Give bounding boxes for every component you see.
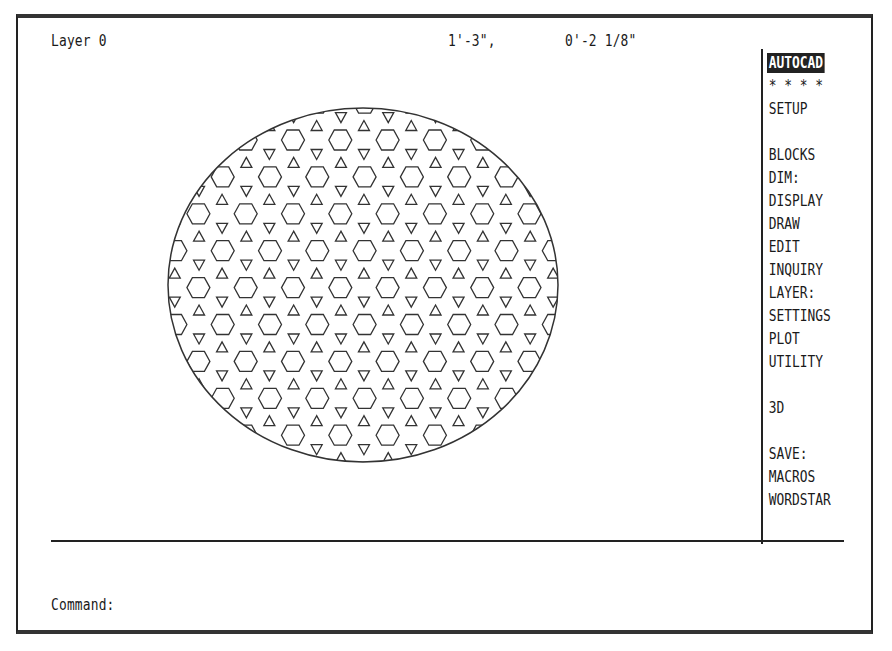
triangle-down-shape [146,260,157,270]
triangle-up-shape [358,47,369,57]
menu-item-plot[interactable]: PLOT [767,329,802,349]
triangle-down-shape [406,76,417,86]
triangle-down-shape [430,260,441,270]
triangle-up-shape [75,194,86,204]
menu-item-blocks[interactable]: BLOCKS [767,145,817,165]
hexagon-shape [18,351,21,371]
triangle-down-shape [525,186,536,196]
hexagon-shape [495,241,518,261]
hexagon-shape [448,462,471,482]
triangle-up-shape [288,157,299,167]
menu-item-edit[interactable]: EDIT [767,237,802,257]
triangle-up-shape [406,416,417,426]
hexagon-shape [376,425,399,445]
triangle-up-shape [406,342,417,352]
triangle-down-shape [75,445,86,455]
triangle-up-shape [500,268,511,278]
hexagon-shape [637,388,660,408]
triangle-down-shape [430,334,441,344]
triangle-down-shape [52,260,63,270]
triangle-up-shape [477,379,488,389]
menu-item-draw[interactable]: DRAW [767,214,802,234]
triangle-up-shape [146,157,157,167]
hexagon-shape [282,351,305,371]
menu-item-save[interactable]: SAVE: [767,444,809,464]
triangle-up-shape [217,47,228,57]
triangle-down-shape [430,482,441,492]
triangle-down-shape [595,371,606,381]
hexagon-shape [234,499,257,519]
hexagon-shape [565,499,588,519]
triangle-down-shape [264,76,275,86]
menu-item-wordstar[interactable]: WORDSTAR [767,490,833,510]
hexagon-shape [542,93,565,113]
triangle-up-shape [311,121,322,131]
triangle-up-shape [548,342,559,352]
triangle-up-shape [453,342,464,352]
menu-item-layer[interactable]: LAYER: [767,283,817,303]
hexagon-shape [423,204,446,224]
hexagon-shape [660,425,683,445]
hexagon-shape [117,315,140,335]
triangle-up-shape [335,231,346,241]
triangle-down-shape [525,482,536,492]
menu-item-macros[interactable]: MACROS [767,467,817,487]
menu-item-settings[interactable]: SETTINGS [767,306,833,326]
triangle-up-shape [619,157,630,167]
triangle-up-shape [525,231,536,241]
hexagon-shape [565,351,588,371]
triangle-up-shape [619,231,630,241]
hexagon-shape [376,204,399,224]
hexagon-shape [660,130,683,150]
menu-item-autocad[interactable]: AUTOCAD [767,53,825,73]
menu-item-utility[interactable]: UTILITY [767,352,825,372]
triangle-down-shape [241,334,252,344]
triangle-up-shape [27,194,38,204]
hexagon-shape [660,278,683,298]
triangle-down-shape [667,408,678,418]
triangle-up-shape [453,121,464,131]
triangle-down-shape [642,445,653,455]
triangle-up-shape [619,379,630,389]
hexagon-shape [353,388,376,408]
menu-item-dim[interactable]: DIM: [767,168,802,188]
menu-item-separator[interactable]: * * * * [767,76,825,96]
hexagon-shape [140,278,163,298]
triangle-down-shape [477,482,488,492]
triangle-down-shape [595,519,606,529]
triangle-up-shape [241,84,252,94]
hexagon-shape [164,241,187,261]
triangle-down-shape [358,445,369,455]
hexagon-shape [117,167,140,187]
hexagon-shape [613,204,636,224]
triangle-up-shape [690,121,701,131]
hexagon-shape [565,130,588,150]
triangle-down-shape [335,186,346,196]
triangle-down-shape [406,445,417,455]
coordinate-x: 1'-3", [448,32,496,50]
triangle-up-shape [572,305,583,315]
triangle-up-shape [264,194,275,204]
menu-item-3d[interactable]: 3D [767,398,786,418]
menu-item-setup[interactable]: SETUP [767,99,809,119]
triangle-up-shape [572,84,583,94]
drawing-area[interactable] [18,18,875,638]
triangle-up-shape [358,416,369,426]
ellipse-entity[interactable] [168,108,558,462]
menu-item-display[interactable]: DISPLAY [767,191,825,211]
triangle-down-shape [194,482,205,492]
triangle-down-shape [690,371,701,381]
hexagon-shape [282,130,305,150]
hexagon-shape [92,425,115,445]
triangle-up-shape [500,416,511,426]
triangle-up-shape [430,305,441,315]
menu-item-inquiry[interactable]: INQUIRY [767,260,825,280]
triangle-up-shape [383,379,394,389]
command-prompt[interactable]: Command: [51,596,115,614]
triangle-down-shape [169,445,180,455]
hexagon-shape [613,425,636,445]
hexagon-shape [306,241,329,261]
hexagon-shape [69,315,92,335]
triangle-up-shape [358,268,369,278]
hexagon-shape [140,351,163,371]
